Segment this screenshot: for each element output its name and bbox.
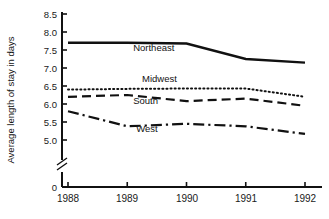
y-tick-label: 8.5: [44, 9, 57, 20]
x-tick-label: 1991: [235, 193, 258, 204]
series-label-south: South: [133, 95, 158, 106]
x-tick-label: 1990: [176, 193, 199, 204]
y-tick-label: 7.0: [44, 63, 57, 74]
x-tick-labels: 1988 1989 1990 1991 1992: [57, 193, 317, 204]
chart-canvas: 8.5 8.0 7.5 7.0 6.5 6.0 5.5 5.0 0 1988 1…: [0, 0, 329, 219]
y-tick-label: 5.0: [44, 135, 57, 146]
y-tick-label: 7.5: [44, 45, 57, 56]
series-line-south: [68, 95, 305, 106]
y-tick-label: 5.5: [44, 117, 57, 128]
y-tick-label: 8.0: [44, 27, 57, 38]
x-tick-label: 1989: [116, 193, 139, 204]
series-label-northeast: Northeast: [133, 42, 175, 53]
line-chart: 8.5 8.0 7.5 7.0 6.5 6.0 5.5 5.0 0 1988 1…: [0, 0, 329, 219]
series-line-west: [68, 111, 305, 134]
series-lines: [68, 43, 305, 134]
x-tick-label: 1992: [294, 193, 317, 204]
y-tick-labels: 8.5 8.0 7.5 7.0 6.5 6.0 5.5 5.0 0: [44, 9, 57, 193]
y-axis-title: Average length of stay in days: [5, 36, 16, 163]
series-label-midwest: Midwest: [142, 73, 177, 84]
y-tick-label: 6.5: [44, 81, 57, 92]
y-tick-label-zero: 0: [52, 182, 57, 193]
x-tick-label: 1988: [57, 193, 80, 204]
y-tick-label: 6.0: [44, 99, 57, 110]
series-label-west: West: [136, 123, 158, 134]
series-line-northeast: [68, 43, 305, 63]
